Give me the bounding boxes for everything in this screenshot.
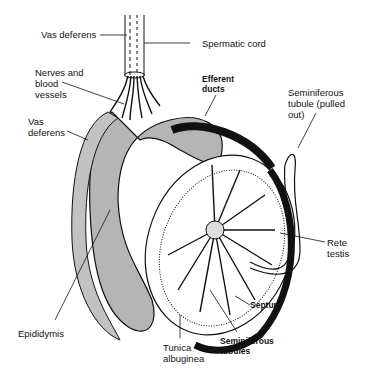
label-seminiferous-tubules: Seminiferous tubules — [220, 336, 274, 356]
label-septum: Septum — [250, 300, 281, 310]
label-vas-deferens-left: Vas deferens — [28, 116, 65, 138]
label-epididymis: Epididymis — [18, 328, 64, 339]
label-efferent-ducts: Efferent ducts — [202, 74, 234, 94]
label-rete-testis: Rete testis — [327, 237, 349, 259]
label-nerves-blood-vessels: Nerves and blood vessels — [35, 67, 84, 100]
label-seminiferous-tubule-pulled: Seminiferous tubule (pulled out) — [288, 87, 345, 120]
label-tunica-albuginea: Tunica albuginea — [163, 342, 204, 364]
nerves-and-vessels — [110, 76, 160, 120]
label-spermatic-cord: Spermatic cord — [202, 38, 266, 49]
rete-testis — [206, 221, 224, 239]
anatomy-illustration — [0, 0, 377, 384]
spermatic-cord — [125, 15, 145, 78]
label-vas-deferens-top: Vas deferens — [41, 29, 96, 40]
